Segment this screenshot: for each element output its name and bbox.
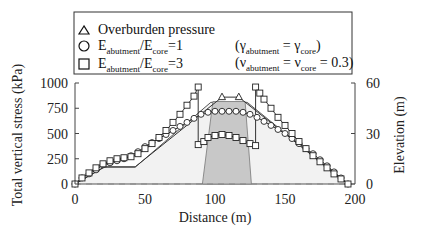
y2-axis-title: Elevation (m): [392, 96, 408, 174]
circle-marker-icon: [261, 118, 267, 124]
square-marker-icon: [345, 181, 351, 187]
square-marker-icon: [177, 111, 183, 117]
y-tick-label: 500: [47, 127, 68, 142]
circle-marker-icon: [247, 111, 253, 117]
x-tick-label: 200: [345, 192, 366, 207]
square-marker-icon: [261, 96, 267, 102]
x-tick-label: 150: [275, 192, 296, 207]
y-tick-label: 750: [47, 101, 68, 116]
y-tick-label: 250: [47, 152, 68, 167]
square-marker-icon: [149, 141, 155, 147]
stress-elevation-chart: Overburden pressure Eabutment/Ecore=1 Ea…: [0, 0, 423, 237]
square-marker-icon: [253, 84, 259, 90]
circle-marker-icon: [282, 131, 288, 137]
square-marker-icon: [163, 127, 169, 133]
square-marker-icon: [226, 133, 232, 139]
square-marker-icon: [195, 84, 201, 90]
square-marker-icon: [317, 159, 323, 165]
x-tick-label: 50: [138, 192, 152, 207]
square-marker-icon: [205, 135, 211, 141]
square-marker-icon: [338, 176, 344, 182]
square-marker-icon: [121, 155, 127, 161]
square-marker-icon: [268, 105, 274, 111]
circle-marker-icon: [177, 123, 183, 129]
square-marker-icon: [135, 151, 141, 157]
square-marker-icon: [114, 156, 120, 162]
y2-tick-label: 60: [366, 76, 380, 91]
circle-marker-icon: [275, 126, 281, 132]
square-marker-icon: [296, 139, 302, 145]
circle-marker-icon: [191, 115, 197, 121]
square-marker-icon: [170, 119, 176, 125]
square-marker-icon: [324, 165, 330, 171]
y-ticks-left: 02505007501000: [40, 76, 79, 192]
x-tick-label: 100: [205, 192, 226, 207]
square-marker-icon: [240, 138, 246, 144]
square-marker-icon: [195, 142, 201, 148]
circle-marker-icon: [233, 108, 239, 114]
y-tick-label: 0: [61, 177, 68, 192]
circle-marker-icon: [226, 108, 232, 114]
triangle-marker-icon: [235, 93, 242, 100]
square-marker-icon: [184, 102, 190, 108]
y-axis-title: Total vertical stress (kPa): [10, 63, 26, 206]
circle-marker-icon: [198, 111, 204, 117]
square-marker-icon: [156, 135, 162, 141]
square-marker-icon: [253, 143, 259, 149]
legend-overburden: Overburden pressure: [98, 22, 215, 37]
x-tick-label: 0: [72, 192, 79, 207]
circle-marker-icon: [240, 109, 246, 115]
circle-marker-icon: [184, 119, 190, 125]
square-marker-icon: [331, 171, 337, 177]
circle-marker-icon: [268, 122, 274, 128]
square-marker-icon: [275, 114, 281, 120]
circle-marker-icon: [219, 108, 225, 114]
square-marker-icon: [142, 146, 148, 152]
square-marker-icon: [310, 153, 316, 159]
y2-tick-label: 30: [366, 127, 380, 142]
square-marker-icon: [107, 158, 113, 164]
square-marker-icon: [212, 133, 218, 139]
square-marker-icon: [219, 132, 225, 138]
square-marker-icon: [128, 154, 134, 160]
square-marker-icon: [100, 161, 106, 167]
x-axis-title: Distance (m): [179, 210, 252, 226]
circle-marker-icon: [205, 109, 211, 115]
y2-tick-label: 0: [366, 177, 373, 192]
circle-marker-icon: [212, 108, 218, 114]
square-marker-icon: [247, 141, 253, 147]
triangle-marker-icon: [219, 93, 226, 100]
square-marker-icon: [86, 170, 92, 176]
square-marker-icon: [303, 146, 309, 152]
y-tick-label: 1000: [40, 76, 68, 91]
square-marker-icon: [233, 135, 239, 141]
square-marker-icon: [79, 175, 85, 181]
x-ticks: 050100150200: [72, 192, 366, 207]
square-marker-icon: [289, 131, 295, 137]
square-marker-icon: [93, 165, 99, 171]
circle-marker-icon: [254, 114, 260, 120]
circle-marker-icon: [170, 127, 176, 133]
square-marker-icon: [191, 93, 197, 99]
square-marker-icon: [257, 90, 263, 96]
square-marker-icon: [282, 122, 288, 128]
